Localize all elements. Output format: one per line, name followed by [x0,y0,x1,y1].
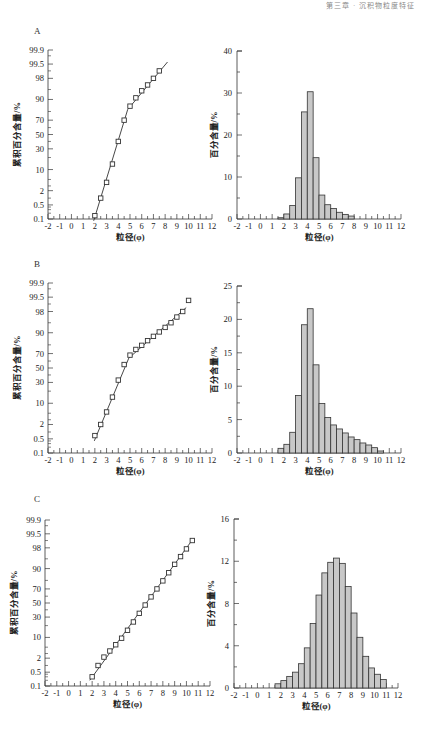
x-tick-label: 4 [116,455,121,465]
histogram-bar [348,437,354,453]
x-tick-label: 4 [305,221,310,231]
x-tick-label: 9 [173,688,177,698]
x-tick-label: 10 [373,221,382,231]
data-point-marker [122,362,126,366]
x-tick-label: -1 [245,221,252,231]
chart-b-frequency: 0510152025-2-10123456789101112粒径(φ)百分含量/… [209,281,405,476]
data-point-marker [99,422,103,426]
data-point-marker [140,343,144,347]
x-tick-label: 6 [137,688,141,698]
x-tick-label: 12 [397,455,406,465]
histogram-bar [316,595,322,688]
x-axis-label: 粒径(φ) [305,466,334,476]
data-point-marker [175,315,179,319]
y-tick-label: 99.9 [29,278,44,288]
data-point-marker [90,675,94,679]
y-axis-label: 累积百分含量/% [12,336,22,401]
x-tick-label: 6 [329,221,333,231]
x-tick-label: -2 [44,455,51,465]
y-axis-label: 累积百分含量/% [9,571,19,636]
x-tick-label: 11 [196,455,204,465]
y-axis-label: 百分含量/% [209,112,219,159]
y-tick-label: 90 [36,94,45,104]
y-tick-label: 10 [33,632,42,642]
data-point-marker [134,96,138,100]
histogram-bar [296,396,302,453]
data-point-marker [125,628,129,632]
x-tick-label: 6 [140,455,144,465]
x-tick-label: 0 [258,221,262,231]
x-tick-label: 10 [182,688,191,698]
data-point-marker [134,347,138,351]
x-axis-label: 粒径(φ) [302,701,331,711]
x-tick-label: 5 [128,455,132,465]
histogram-bar [313,158,319,219]
x-tick-label: 7 [151,455,155,465]
x-tick-label: 9 [361,690,365,700]
data-point-marker [151,76,155,80]
x-tick-label: 7 [151,221,155,231]
data-point-marker [181,309,185,313]
x-tick-label: 0 [66,688,70,698]
data-point-marker [157,69,161,73]
data-point-marker [131,620,135,624]
y-tick-label: 10 [224,172,233,182]
histogram-bar [331,209,337,220]
x-tick-label: -2 [233,221,240,231]
y-axis-label: 百分含量/% [209,346,219,393]
histogram-bar [337,429,343,453]
y-tick-label: 8 [225,599,229,609]
x-tick-label: 3 [293,455,297,465]
histogram-bar [345,587,351,688]
x-tick-label: 9 [364,221,368,231]
y-tick-label: 20 [224,130,233,140]
data-point-marker [99,196,103,200]
y-tick-label: 0 [225,683,229,693]
y-tick-label: 30 [33,612,42,622]
fit-line [94,62,168,221]
histogram-bar [313,365,319,453]
histogram-bar [298,664,304,688]
histogram-bar [342,433,348,453]
x-tick-label: 0 [255,690,259,700]
data-point-marker [145,338,149,342]
x-tick-label: 6 [326,690,330,700]
x-tick-label: 3 [104,221,108,231]
x-tick-label: 12 [208,221,217,231]
y-tick-label: 90 [36,328,45,338]
y-tick-label: 4 [225,641,230,651]
x-axis-label: 粒径(φ) [116,466,145,476]
data-point-marker [155,587,159,591]
data-point-marker [108,649,112,653]
x-axis-label: 粒径(φ) [113,699,142,709]
x-tick-label: 11 [382,690,390,700]
x-tick-label: 6 [140,221,144,231]
histogram-bar [354,440,360,453]
x-tick-label: 3 [104,455,108,465]
y-tick-label: 90 [33,564,42,574]
histogram-bar [293,672,299,688]
data-point-marker [93,213,97,217]
x-tick-label: 7 [340,455,344,465]
y-tick-label: 25 [224,281,233,291]
y-tick-label: 12 [221,556,230,566]
data-point-marker [128,353,132,357]
histogram-bar [287,676,293,688]
histogram-bar [275,684,281,688]
y-axis-label: 累积百分含量/% [12,102,22,167]
x-tick-label: 3 [293,221,297,231]
histogram-bar [290,432,296,453]
data-point-marker [110,395,114,399]
data-point-marker [122,118,126,122]
x-tick-label: 3 [102,688,106,698]
x-tick-label: 10 [373,455,382,465]
y-tick-label: 40 [224,46,233,56]
histogram-bar [278,218,284,219]
histogram-bar [366,445,372,453]
x-tick-label: 7 [337,690,341,700]
data-point-marker [149,595,153,599]
x-tick-label: -1 [53,688,60,698]
data-point-marker [119,636,123,640]
x-tick-label: 7 [340,221,344,231]
y-tick-label: 2 [40,186,44,196]
